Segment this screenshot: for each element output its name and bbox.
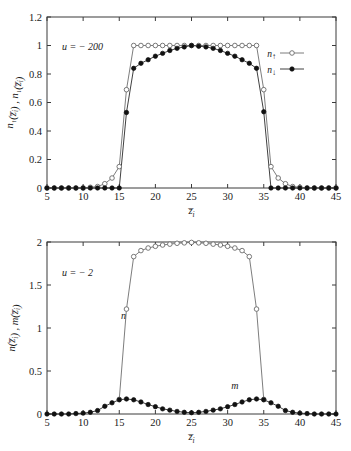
data-point <box>283 181 288 186</box>
data-point <box>74 186 78 190</box>
data-point <box>160 51 164 55</box>
y-axis-title: n↑(z̅i) , n↓(z̅i) <box>4 76 26 128</box>
data-point <box>131 43 136 48</box>
data-point <box>146 402 150 406</box>
x-tick-label: 5 <box>44 191 49 202</box>
data-point <box>139 43 144 48</box>
data-point <box>146 58 150 62</box>
data-point <box>117 398 121 402</box>
data-point <box>298 186 302 190</box>
y-tick-label: 0.4 <box>29 126 43 137</box>
data-point <box>110 176 115 181</box>
data-point <box>276 176 281 181</box>
data-point <box>124 397 128 401</box>
data-point <box>139 248 144 253</box>
y-tick-label: 1.2 <box>29 12 42 23</box>
data-point <box>160 407 164 411</box>
data-point <box>254 397 258 401</box>
data-point <box>225 404 229 408</box>
x-tick-label: 5 <box>44 417 49 428</box>
data-point <box>254 66 258 70</box>
data-point <box>240 400 244 404</box>
data-point <box>153 54 157 58</box>
data-point <box>211 242 216 247</box>
data-point <box>240 58 244 62</box>
x-tick-label: 45 <box>331 417 342 428</box>
data-point <box>262 110 266 114</box>
data-point <box>95 408 99 412</box>
data-point <box>103 404 107 408</box>
data-point <box>66 186 70 190</box>
y-tick-label: 2 <box>37 237 42 248</box>
series-line-0 <box>119 242 264 399</box>
data-point <box>240 248 245 253</box>
data-point <box>153 244 158 249</box>
x-tick-label: 35 <box>259 417 270 428</box>
data-point <box>175 241 180 246</box>
data-point <box>153 404 157 408</box>
y-tick-label: 0 <box>37 409 42 420</box>
chart-panel-bottom: 5101520253035404500.511.52z̅in(z̅i) , m(… <box>0 226 351 451</box>
data-point <box>225 244 230 249</box>
x-tick-label: 15 <box>114 417 125 428</box>
data-point <box>283 408 287 412</box>
data-point <box>319 412 323 416</box>
data-point <box>182 241 187 246</box>
data-point <box>211 46 215 50</box>
data-point <box>175 409 179 413</box>
data-point <box>247 61 251 65</box>
data-point <box>81 411 85 415</box>
data-point <box>204 241 209 246</box>
x-tick-label: 40 <box>295 191 306 202</box>
figure-container: 5101520253035404500.20.40.60.811.2z̅in↑(… <box>0 0 351 451</box>
data-point <box>276 186 280 190</box>
top-panel-svg: 5101520253035404500.20.40.60.811.2z̅in↑(… <box>0 0 351 225</box>
data-point <box>132 398 136 402</box>
data-point <box>182 410 186 414</box>
data-point <box>269 164 274 169</box>
y-tick-label: 1.5 <box>29 280 42 291</box>
data-point <box>305 411 309 415</box>
data-point <box>197 410 201 414</box>
data-point <box>247 254 252 259</box>
annotation-coupling: u = − 2 <box>62 267 93 278</box>
x-tick-label: 30 <box>222 417 233 428</box>
data-point <box>262 398 266 402</box>
data-point <box>247 398 251 402</box>
data-point <box>204 45 208 49</box>
data-point <box>146 43 151 48</box>
data-point <box>124 110 128 114</box>
data-point <box>247 43 252 48</box>
data-point <box>233 43 238 48</box>
data-point <box>132 66 136 70</box>
data-point <box>334 186 338 190</box>
data-point <box>327 186 331 190</box>
data-point <box>218 243 223 248</box>
x-tick-label: 20 <box>150 417 161 428</box>
data-point <box>233 54 237 58</box>
data-point <box>131 254 136 259</box>
data-point <box>110 401 114 405</box>
data-point <box>45 412 49 416</box>
x-tick-label: 40 <box>295 417 306 428</box>
data-point <box>269 186 273 190</box>
data-point <box>139 61 143 65</box>
legend-marker-1 <box>290 67 294 71</box>
y-tick-label: 0 <box>37 183 42 194</box>
x-tick-label: 30 <box>222 191 233 202</box>
data-point <box>168 43 173 48</box>
x-tick-label: 35 <box>259 191 270 202</box>
data-point <box>196 241 201 246</box>
data-point <box>261 87 266 92</box>
data-point <box>189 43 193 47</box>
y-tick-label: 0.8 <box>29 69 42 80</box>
data-point <box>276 404 280 408</box>
x-tick-label: 10 <box>78 417 89 428</box>
data-point <box>103 186 107 190</box>
data-point <box>240 43 245 48</box>
data-point <box>211 408 215 412</box>
data-point <box>218 48 222 52</box>
data-point <box>327 412 331 416</box>
legend-label-1: n↓ <box>267 65 276 78</box>
curve-label-m: m <box>231 380 238 391</box>
